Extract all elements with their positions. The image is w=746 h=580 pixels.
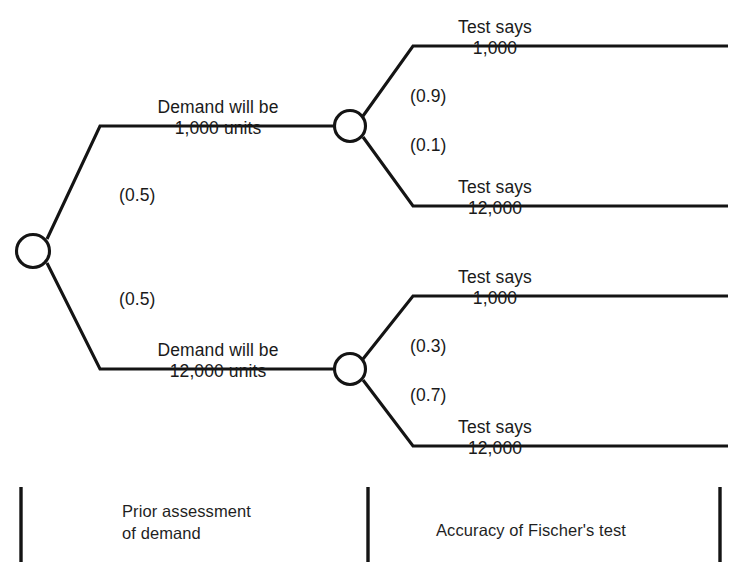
probability-label-high-test-low: (0.3) — [410, 336, 446, 357]
branch-label-high-test-high: Test says 12,000 — [420, 417, 570, 458]
decision-tree-diagram: Demand will be 1,000 units (0.5) (0.5) D… — [0, 0, 746, 580]
branch-label-high-test-high-line2: 12,000 — [420, 438, 570, 459]
branch-label-high-test-high-line1: Test says — [420, 417, 570, 438]
stage-caption-prior-assessment: Prior assessment of demand — [122, 500, 251, 545]
tree-canvas — [0, 0, 746, 580]
probability-label-high-test-high: (0.7) — [410, 385, 446, 406]
chance-node-demand-low[interactable] — [335, 111, 366, 142]
branch-label-low-test-high-line2: 12,000 — [420, 198, 570, 219]
branch-label-demand-high: Demand will be 12,000 units — [103, 340, 333, 381]
chance-node-demand-high[interactable] — [335, 354, 366, 385]
stage-caption-prior-assessment-line1: Prior assessment — [122, 500, 251, 522]
branch-label-low-test-low-line2: 1,000 — [420, 38, 570, 59]
branch-label-demand-low-line1: Demand will be — [103, 97, 333, 118]
branch-label-high-test-low-line1: Test says — [420, 267, 570, 288]
branch-label-demand-low: Demand will be 1,000 units — [103, 97, 333, 138]
branch-label-low-test-high-line1: Test says — [420, 177, 570, 198]
branch-label-high-test-low: Test says 1,000 — [420, 267, 570, 308]
branch-label-low-test-low-line1: Test says — [420, 17, 570, 38]
probability-label-low-test-low: (0.9) — [410, 86, 446, 107]
branch-label-high-test-low-line2: 1,000 — [420, 288, 570, 309]
stage-caption-test-accuracy: Accuracy of Fischer's test — [436, 519, 626, 541]
branch-label-demand-high-line1: Demand will be — [103, 340, 333, 361]
probability-label-demand-low: (0.5) — [119, 185, 155, 206]
branch-line-demand-low — [47, 126, 334, 239]
branch-label-demand-low-line2: 1,000 units — [103, 118, 333, 139]
branch-label-low-test-low: Test says 1,000 — [420, 17, 570, 58]
chance-node-root[interactable] — [17, 235, 50, 268]
probability-label-demand-high: (0.5) — [119, 289, 155, 310]
probability-label-low-test-high: (0.1) — [410, 135, 446, 156]
branch-label-demand-high-line2: 12,000 units — [103, 361, 333, 382]
branch-label-low-test-high: Test says 12,000 — [420, 177, 570, 218]
stage-caption-prior-assessment-line2: of demand — [122, 522, 251, 544]
